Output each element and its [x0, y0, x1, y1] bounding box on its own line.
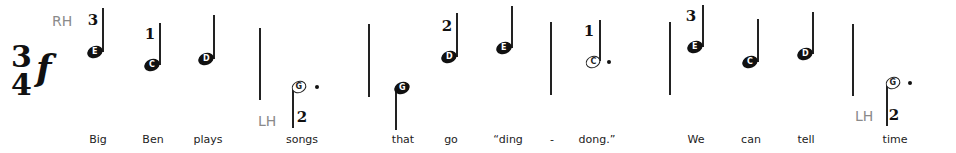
note-stem: [757, 19, 759, 62]
lyric: tell: [797, 133, 814, 146]
finger-number: 2: [889, 106, 899, 124]
lyric: dong.”: [579, 133, 616, 146]
note-stem: [886, 84, 888, 126]
note-stem: [456, 13, 458, 57]
lyric: “ding: [493, 133, 523, 146]
lyric: We: [688, 133, 705, 146]
lyric: time: [883, 133, 908, 146]
barline: [368, 24, 370, 97]
finger-number: 1: [584, 22, 594, 40]
note-stem: [812, 12, 814, 54]
finger-number: 2: [442, 17, 452, 35]
barline: [550, 22, 552, 95]
note-stem: [213, 15, 215, 59]
note-stem: [292, 88, 294, 128]
note-stem: [702, 5, 704, 47]
note-stem: [599, 20, 601, 61]
lyric: go: [444, 133, 458, 146]
lyric: Ben: [142, 133, 163, 146]
barline: [669, 22, 671, 95]
lyric: plays: [193, 133, 222, 146]
left-hand-label: LH: [258, 113, 276, 129]
augmentation-dot: [315, 85, 319, 89]
note-stem: [102, 8, 104, 52]
lyric: songs: [286, 133, 318, 146]
finger-number: 3: [88, 11, 98, 29]
note-stem: [395, 89, 397, 130]
lyric: can: [741, 133, 761, 146]
finger-number: 2: [297, 108, 307, 126]
note-stem: [159, 23, 161, 65]
finger-number: 1: [145, 25, 155, 43]
left-hand-label: LH: [855, 108, 873, 124]
note-stem: [511, 6, 513, 48]
augmentation-dot: [607, 60, 611, 64]
forte-dynamic: f: [36, 46, 52, 88]
finger-number: 3: [686, 7, 696, 25]
barline: [259, 28, 261, 100]
lyric: that: [392, 133, 414, 146]
augmentation-dot: [908, 81, 912, 85]
barline: [852, 24, 854, 96]
right-hand-label: RH: [52, 13, 72, 29]
time-signature-bottom: 4: [11, 72, 32, 98]
lyric-hyphen: -: [550, 133, 554, 146]
lyric: Big: [89, 133, 107, 146]
